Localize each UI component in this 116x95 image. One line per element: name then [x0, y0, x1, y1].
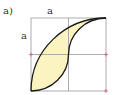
- top-side-label: a: [47, 5, 53, 16]
- geometry-figure: a) a a: [0, 0, 116, 95]
- marker-left-mid: [29, 53, 33, 57]
- marker-bottom-right: [104, 89, 108, 93]
- marker-right-mid: [104, 53, 108, 57]
- left-side-label: a: [21, 30, 27, 41]
- part-label: a): [3, 5, 13, 16]
